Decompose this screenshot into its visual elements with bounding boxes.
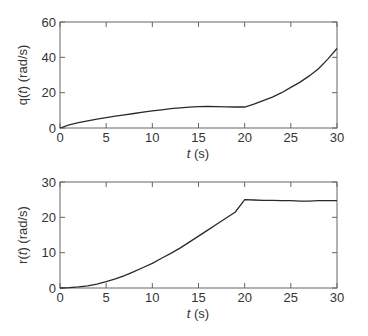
x-tick-label: 25 <box>284 130 298 145</box>
x-tick-label: 5 <box>103 130 110 145</box>
y-tick-label: 20 <box>42 210 56 225</box>
r-plot: 0510152025300102030 r(t) (rad/s) t (s) <box>15 175 344 322</box>
y-tick-label: 60 <box>42 15 56 30</box>
q-curve <box>60 49 337 129</box>
x-tick-label: 15 <box>191 290 205 305</box>
y-tick-label: 10 <box>42 245 56 260</box>
q-xlabel: t (s) <box>187 146 209 161</box>
x-tick-label: 10 <box>145 290 159 305</box>
r-plot-frame <box>60 182 337 288</box>
q-ylabel: q(t) (rad/s) <box>15 45 30 106</box>
x-tick-label: 0 <box>56 290 63 305</box>
x-tick-label: 0 <box>56 130 63 145</box>
x-tick-label: 30 <box>330 290 344 305</box>
y-tick-label: 0 <box>49 281 56 296</box>
y-tick-label: 0 <box>49 121 56 136</box>
y-tick-label: 20 <box>42 85 56 100</box>
q-plot-ticks: 0510152025300204060 <box>42 15 345 146</box>
r-curve <box>60 200 337 288</box>
r-xlabel: t (s) <box>187 306 209 321</box>
x-tick-label: 5 <box>103 290 110 305</box>
x-tick-label: 20 <box>237 290 251 305</box>
q-plot-frame <box>60 22 337 128</box>
y-tick-label: 40 <box>42 50 56 65</box>
x-tick-label: 10 <box>145 130 159 145</box>
x-tick-label: 15 <box>191 130 205 145</box>
x-tick-label: 25 <box>284 290 298 305</box>
q-plot: 0510152025300204060 q(t) (rad/s) t (s) <box>15 15 344 162</box>
r-ylabel: r(t) (rad/s) <box>15 206 30 264</box>
x-tick-label: 20 <box>237 130 251 145</box>
x-tick-label: 30 <box>330 130 344 145</box>
chart-figure: 0510152025300204060 q(t) (rad/s) t (s) 0… <box>0 0 368 336</box>
y-tick-label: 30 <box>42 175 56 190</box>
